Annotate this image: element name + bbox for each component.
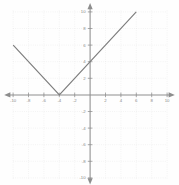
x-tick-label: -2 bbox=[73, 98, 77, 103]
graph-screenshot: -10 -8 -6 -4 -2 2 4 6 8 10 10 8 6 4 2 -2… bbox=[0, 0, 179, 185]
x-tick-label: 6 bbox=[135, 98, 138, 103]
y-tick-label: -4 bbox=[82, 126, 86, 131]
y-tick-label: 10 bbox=[81, 9, 86, 14]
y-axis bbox=[88, 3, 93, 185]
x-tick-label: -4 bbox=[57, 98, 61, 103]
x-tick-label: 10 bbox=[165, 98, 170, 103]
x-axis bbox=[4, 92, 175, 97]
coordinate-plane-graph: -10 -8 -6 -4 -2 2 4 6 8 10 10 8 6 4 2 -2… bbox=[0, 0, 179, 185]
x-tick-label: -10 bbox=[10, 98, 17, 103]
x-tick-label: -6 bbox=[42, 98, 46, 103]
x-tick-label: 4 bbox=[120, 98, 123, 103]
y-tick-label: -6 bbox=[82, 142, 86, 147]
x-tick-label: 2 bbox=[104, 98, 107, 103]
y-tick-label: -8 bbox=[82, 159, 86, 164]
x-tick-label: 8 bbox=[151, 98, 154, 103]
y-tick-label: -10 bbox=[79, 175, 86, 180]
y-tick-label: -2 bbox=[82, 109, 86, 114]
x-tick-label: -8 bbox=[27, 98, 31, 103]
